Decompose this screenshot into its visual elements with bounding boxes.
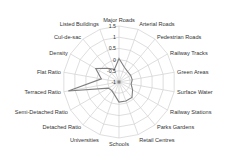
center-marker xyxy=(118,81,121,84)
axis-label: Listed Buildings xyxy=(60,21,99,27)
grid-spoke xyxy=(100,29,119,82)
axis-label: Universities xyxy=(70,137,99,143)
tick-label: 0.5 xyxy=(109,45,116,51)
grid-spoke xyxy=(100,82,119,135)
axis-label: Railway Stations xyxy=(170,109,212,115)
axis-label: Arterial Roads xyxy=(139,21,175,27)
axis-label: Major Roads xyxy=(103,17,135,23)
axis-label: Flat Ratio xyxy=(37,69,61,75)
axis-label: Terraced Ratio xyxy=(25,89,61,95)
axis-label: Pedestrian Roads xyxy=(157,34,202,40)
tick-label: -1 xyxy=(111,79,116,85)
grid-spoke xyxy=(119,29,138,82)
axis-label: Schools xyxy=(109,141,129,147)
axis-label: Retail Centres xyxy=(139,137,175,143)
tick-label: 1.5 xyxy=(109,23,116,29)
axis-label: Green Areas xyxy=(177,69,209,75)
tick-label: 1 xyxy=(113,34,116,40)
radar-plot: -1-0.500.511.5 Major RoadsArterial Roads… xyxy=(0,0,227,163)
axis-label: Detached Ratio xyxy=(43,124,82,130)
axis-label: Semi-Detached Ratio xyxy=(15,109,68,115)
axis-label: Railway Tracks xyxy=(170,50,208,56)
tick-label: -0.5 xyxy=(107,68,116,74)
radar-chart: -1-0.500.511.5 Major RoadsArterial Roads… xyxy=(0,0,227,163)
axis-label: Parks Gardens xyxy=(157,124,195,130)
axis-label: Density xyxy=(49,50,68,56)
tick-label: 0 xyxy=(113,57,116,63)
grid-spoke xyxy=(119,82,138,135)
axis-label: Surface Water xyxy=(177,89,213,95)
axis-label: Cul-de-sac xyxy=(54,34,81,40)
